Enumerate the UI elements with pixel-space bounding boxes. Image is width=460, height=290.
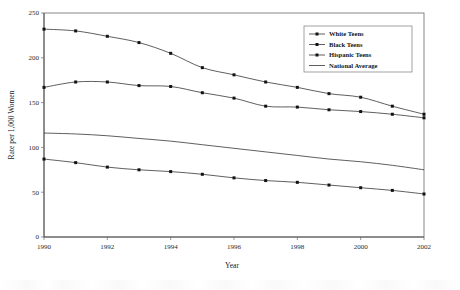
legend-label: National Average (329, 62, 377, 69)
series-national-average (44, 133, 424, 170)
data-point-marker (391, 113, 394, 116)
data-point-marker (201, 173, 204, 176)
x-tick-label: 2002 (417, 243, 432, 251)
data-point-marker (138, 41, 141, 44)
page-text-fragment (0, 280, 460, 290)
legend-label: White Teens (329, 30, 364, 37)
legend-label: Black Teens (329, 41, 363, 48)
data-point-marker (328, 184, 331, 187)
data-point-marker (106, 35, 109, 38)
chart-figure: 050100150200250 199019921994199619982000… (0, 0, 460, 290)
data-point-marker (201, 91, 204, 94)
data-point-marker (359, 186, 362, 189)
data-point-marker (233, 97, 236, 100)
data-point-marker (391, 189, 394, 192)
x-tick-label: 2000 (354, 243, 369, 251)
data-point-marker (106, 166, 109, 169)
y-tick-label: 0 (36, 233, 40, 241)
x-axis-ticks: 1990199219941996199820002002 (37, 237, 432, 251)
data-point-marker (106, 80, 109, 83)
x-tick-label: 1994 (164, 243, 179, 251)
legend-label: Hispanic Teens (329, 51, 372, 58)
data-point-marker (264, 179, 267, 182)
chart-legend: White TeensBlack TeensHispanic TeensNati… (304, 26, 412, 72)
data-point-marker (296, 181, 299, 184)
y-axis-ticks: 050100150200250 (29, 9, 45, 241)
data-point-marker (74, 80, 77, 83)
data-point-marker (423, 113, 426, 116)
y-tick-label: 100 (29, 144, 40, 152)
data-point-marker (391, 105, 394, 108)
data-point-marker (359, 110, 362, 113)
y-axis-title: Rate per 1,000 Women (7, 90, 16, 159)
x-tick-label: 1992 (100, 243, 115, 251)
data-point-marker (74, 29, 77, 32)
data-point-marker (201, 66, 204, 69)
data-point-marker (233, 176, 236, 179)
data-point-marker (328, 108, 331, 111)
line-chart: 050100150200250 199019921994199619982000… (0, 0, 460, 290)
x-tick-label: 1998 (290, 243, 305, 251)
x-tick-label: 1996 (227, 243, 242, 251)
y-tick-label: 250 (29, 9, 40, 17)
data-point-marker (43, 28, 46, 31)
data-point-marker (74, 161, 77, 164)
data-point-marker (359, 96, 362, 99)
data-point-marker (233, 73, 236, 76)
x-axis-title: Year (225, 261, 239, 270)
data-point-marker (296, 86, 299, 89)
series-black-teens (43, 80, 426, 119)
data-point-marker (169, 85, 172, 88)
data-point-marker (169, 170, 172, 173)
data-point-marker (43, 86, 46, 89)
data-point-marker (43, 158, 46, 161)
y-tick-label: 200 (29, 54, 40, 62)
y-tick-label: 150 (29, 99, 40, 107)
data-point-marker (264, 105, 267, 108)
series-white-teens (43, 158, 426, 196)
data-point-marker (296, 106, 299, 109)
data-point-marker (264, 80, 267, 83)
data-point-marker (138, 168, 141, 171)
data-point-marker (423, 192, 426, 195)
data-point-marker (138, 84, 141, 87)
x-tick-label: 1990 (37, 243, 52, 251)
data-point-marker (328, 92, 331, 95)
y-tick-label: 50 (32, 189, 40, 197)
data-point-marker (169, 52, 172, 55)
legend-marker (316, 43, 319, 46)
legend-marker (316, 33, 319, 36)
legend-marker (316, 54, 319, 57)
data-point-marker (423, 116, 426, 119)
